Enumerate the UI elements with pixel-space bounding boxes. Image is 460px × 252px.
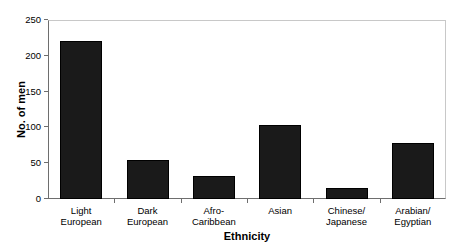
category-label-line2: European <box>48 216 114 227</box>
category-label-line2: Japanese <box>313 216 379 227</box>
y-tick-label: 0 <box>36 192 41 205</box>
bar-chart: No. of men 050100150200250 LightEuropean… <box>0 0 460 252</box>
y-tick-label: 50 <box>30 156 41 169</box>
x-tick-mark <box>114 199 115 203</box>
x-tick-mark <box>313 199 314 203</box>
category-label-line2: Egyptian <box>380 216 446 227</box>
category-label-line1: Chinese/ <box>328 205 366 216</box>
category-label-line2: European <box>114 216 180 227</box>
category-label-line1: Dark <box>137 205 157 216</box>
x-axis-title: Ethnicity <box>48 230 446 242</box>
category-label: DarkEuropean <box>114 205 180 227</box>
bar <box>60 41 102 199</box>
y-tick-label: 250 <box>25 13 41 26</box>
y-axis-title: No. of men <box>14 20 28 199</box>
bar <box>127 160 169 199</box>
y-tick-label: 150 <box>25 85 41 98</box>
category-label: Arabian/Egyptian <box>380 205 446 227</box>
category-label-line1: Arabian/ <box>395 205 430 216</box>
category-label: Afro-Caribbean <box>181 205 247 227</box>
y-tick-label: 200 <box>25 49 41 62</box>
bar <box>326 188 368 199</box>
category-label-line1: Asian <box>268 205 292 216</box>
x-tick-mark <box>380 199 381 203</box>
y-tick-label: 100 <box>25 120 41 133</box>
category-label: Chinese/Japanese <box>313 205 379 227</box>
category-label-line1: Light <box>71 205 92 216</box>
category-label: LightEuropean <box>48 205 114 227</box>
category-label: Asian <box>247 205 313 216</box>
plot-area <box>48 20 446 199</box>
x-tick-mark <box>181 199 182 203</box>
bar <box>392 143 434 199</box>
category-label-line1: Afro- <box>204 205 225 216</box>
x-tick-mark <box>247 199 248 203</box>
category-label-line2: Caribbean <box>181 216 247 227</box>
bar <box>259 125 301 199</box>
bar <box>193 176 235 199</box>
